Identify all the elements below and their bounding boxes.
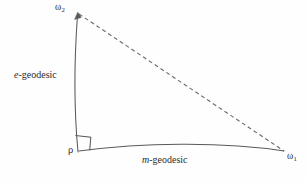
arrowhead-icon [75,12,82,19]
geodesic-triangle-figure: ω2 ω1 ρ e-geodesic m-geodesic [0,0,307,183]
omega2-base: ω [55,2,61,12]
m-geodesic-curve [79,144,284,151]
omega2-subscript: 2 [62,6,65,13]
dashed-chord-line [79,14,284,151]
vertex-label-omega2: ω2 [55,3,65,13]
vertex-label-rho: ρ [68,145,73,156]
e-geodesic-label: e-geodesic [14,70,57,80]
m-geodesic-label-rest: -geodesic [149,154,187,165]
vertex-label-omega1: ω1 [287,152,297,162]
e-geodesic-curve [75,15,78,152]
m-geodesic-label: m-geodesic [142,155,188,165]
e-geodesic-label-rest: -geodesic [18,69,56,80]
omega1-subscript: 1 [294,155,297,162]
omega1-base: ω [287,151,293,161]
